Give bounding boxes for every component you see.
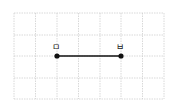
point-label-right: ㅂ (116, 42, 124, 52)
point-right (118, 53, 123, 58)
grid-diagram: ㅁ ㅂ (0, 0, 170, 106)
point-left (54, 53, 59, 58)
point-label-left: ㅁ (52, 42, 60, 52)
